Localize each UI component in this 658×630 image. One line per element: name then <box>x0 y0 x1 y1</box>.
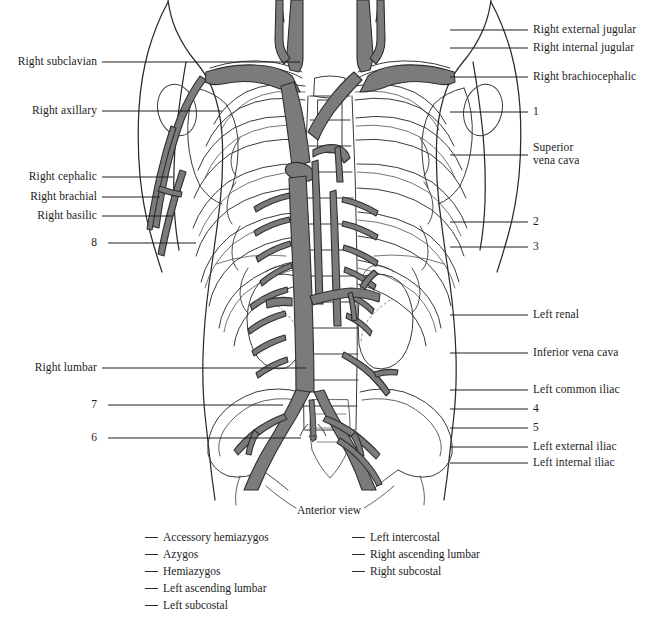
legend-item-right-ascending-lumbar[interactable]: Right ascending lumbar <box>352 548 480 561</box>
label-left-right-cephalic: Right cephalic <box>29 170 97 183</box>
legend-label: Accessory hemiazygos <box>163 531 269 543</box>
label-right-inferior-vena-cava: Inferior vena cava <box>533 346 618 359</box>
legend-label: Left subcostal <box>163 599 228 611</box>
legend-item-left-intercostal[interactable]: Left intercostal <box>352 531 440 544</box>
label-left-right-basilic: Right basilic <box>37 209 97 222</box>
worksheet-page: Right subclavianRight axillaryRight ceph… <box>0 0 658 630</box>
legend-item-left-ascending-lumbar[interactable]: Left ascending lumbar <box>145 582 266 595</box>
label-left-right-subclavian: Right subclavian <box>18 55 97 68</box>
skeleton-ribcage <box>152 61 507 508</box>
label-right-right-internal-jugular: Right internal jugular <box>533 41 634 54</box>
label-right-2: 2 <box>533 215 539 228</box>
label-right-left-external-iliac: Left external iliac <box>533 440 617 453</box>
label-right-superior-vena-cava: Superior vena cava <box>533 141 580 167</box>
label-right-left-internal-iliac: Left internal iliac <box>533 456 615 469</box>
legend-label: Azygos <box>163 548 198 560</box>
label-right-3: 3 <box>533 240 539 253</box>
view-caption: Anterior view <box>0 504 658 516</box>
legend-blank-line[interactable] <box>145 588 158 589</box>
legend-blank-line[interactable] <box>145 571 158 572</box>
legend-blank-line[interactable] <box>145 537 158 538</box>
legend-blank-line[interactable] <box>352 537 365 538</box>
label-left-7: 7 <box>91 398 97 411</box>
legend-blank-line[interactable] <box>145 554 158 555</box>
label-left-right-lumbar: Right lumbar <box>35 361 97 374</box>
legend-item-hemiazygos[interactable]: Hemiazygos <box>145 565 220 578</box>
legend-label: Left ascending lumbar <box>163 582 266 594</box>
legend-label: Right subcostal <box>370 565 441 577</box>
legend-item-left-subcostal[interactable]: Left subcostal <box>145 599 228 612</box>
legend-label: Right ascending lumbar <box>370 548 480 560</box>
venous-vessels <box>147 0 455 490</box>
label-right-5: 5 <box>533 421 539 434</box>
label-left-6: 6 <box>91 431 97 444</box>
label-right-4: 4 <box>533 402 539 415</box>
legend-label: Hemiazygos <box>163 565 220 577</box>
label-right-right-brachiocephalic: Right brachiocephalic <box>533 70 636 83</box>
label-right-left-common-iliac: Left common iliac <box>533 383 620 396</box>
label-left-right-brachial: Right brachial <box>30 190 97 203</box>
legend-item-azygos[interactable]: Azygos <box>145 548 198 561</box>
label-right-1: 1 <box>533 105 539 118</box>
label-right-right-external-jugular: Right external jugular <box>533 23 636 36</box>
legend-blank-line[interactable] <box>145 605 158 606</box>
label-right-left-renal: Left renal <box>533 308 579 321</box>
legend-label: Left intercostal <box>370 531 440 543</box>
legend-item-right-subcostal[interactable]: Right subcostal <box>352 565 441 578</box>
legend-blank-line[interactable] <box>352 571 365 572</box>
legend-item-accessory-hemiazygos[interactable]: Accessory hemiazygos <box>145 531 269 544</box>
legend-blank-line[interactable] <box>352 554 365 555</box>
label-left-right-axillary: Right axillary <box>32 104 97 117</box>
label-left-8: 8 <box>91 236 97 249</box>
